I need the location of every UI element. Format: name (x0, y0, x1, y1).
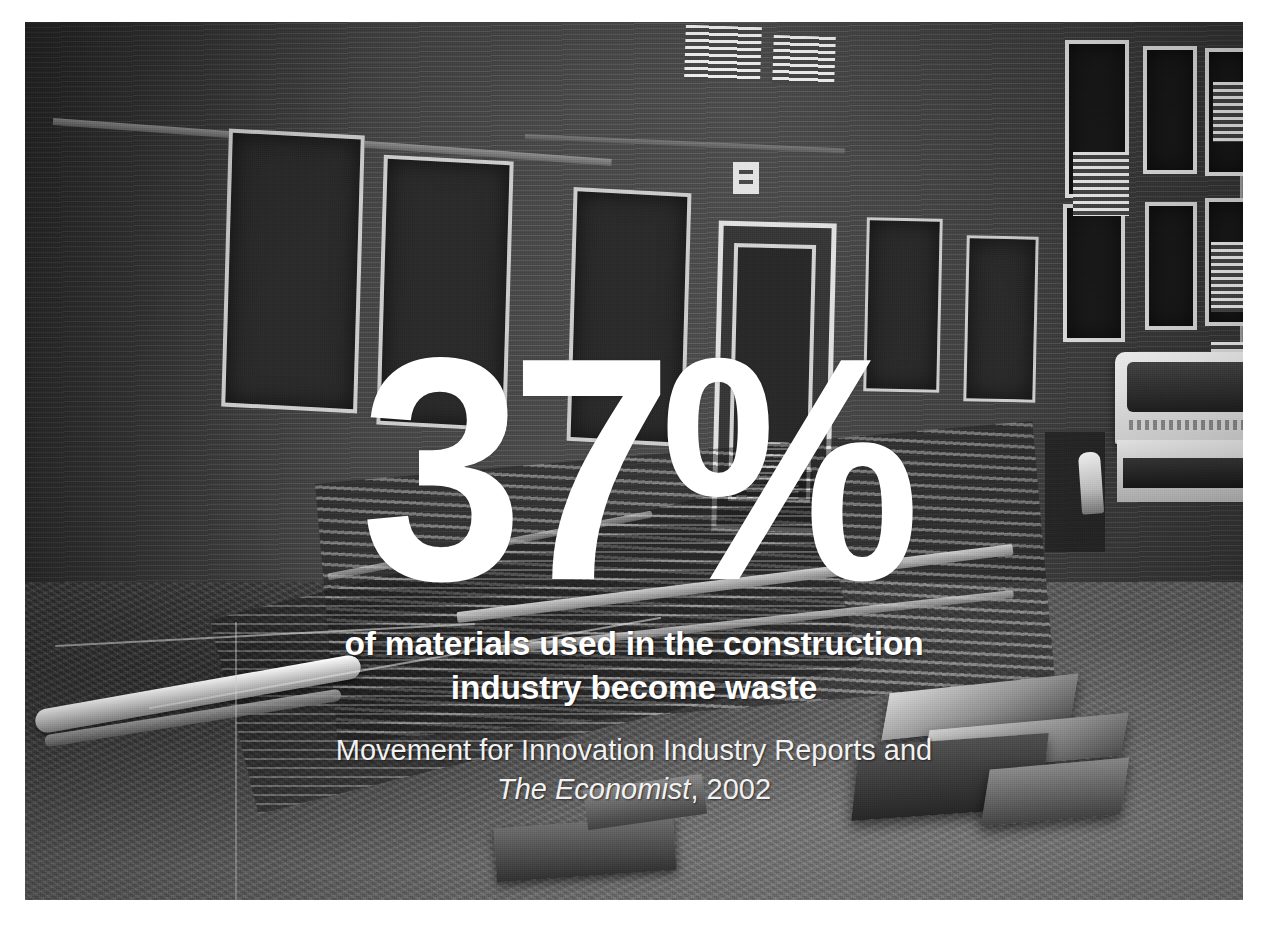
louvered-vent (1213, 82, 1243, 142)
upper-window-pane (1145, 202, 1197, 330)
slide-canvas: 37% of materials used in the constructio… (0, 0, 1268, 926)
truck-bumper (1123, 458, 1243, 488)
wall-plaque (733, 162, 759, 194)
upper-window-pane (1063, 204, 1125, 342)
truck-windshield (1127, 362, 1243, 412)
construction-site-photo (25, 22, 1243, 900)
worker-figure (1078, 451, 1104, 514)
window-pane (963, 235, 1038, 402)
louvered-vent (772, 35, 836, 85)
window-pane (221, 128, 365, 413)
cable-line-vertical (235, 622, 237, 900)
window-pane (567, 187, 692, 447)
truck-grille (1129, 420, 1243, 430)
louvered-vent (1211, 242, 1243, 312)
louvered-vent (1073, 152, 1129, 216)
window-pane (863, 217, 943, 393)
window-pane (376, 155, 513, 432)
upper-window-pane (1143, 46, 1197, 174)
louvered-vent (684, 25, 762, 82)
